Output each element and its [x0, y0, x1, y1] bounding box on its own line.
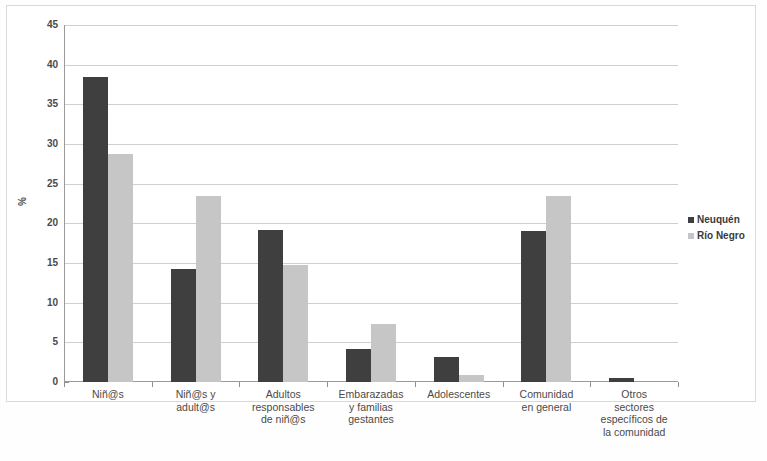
legend-swatch-icon [688, 233, 694, 239]
x-axis-category-label: Adultosresponsablesde niñ@s [233, 388, 333, 426]
bar [171, 269, 196, 382]
bar [108, 154, 133, 382]
y-axis-tick-label: 45 [12, 20, 58, 30]
bar-group [152, 25, 240, 382]
y-axis: 454035302520151050 [8, 25, 58, 382]
y-axis-tick-label: 35 [12, 99, 58, 109]
x-axis-tick-mark [239, 382, 240, 387]
x-axis-category-label: Niñ@s [58, 388, 158, 401]
x-axis-tick-mark [327, 382, 328, 387]
bar [434, 357, 459, 382]
chart-legend: NeuquénRío Negro [688, 214, 764, 246]
x-axis-category-label: Embarazadasy familiasgestantes [321, 388, 421, 426]
bar [346, 349, 371, 382]
x-axis-tick-mark [64, 382, 65, 387]
y-axis-tick-label: 20 [12, 218, 58, 228]
x-axis-tick-mark [590, 382, 591, 387]
legend-label: Neuquén [697, 214, 740, 225]
bar-group [239, 25, 327, 382]
y-axis-title: % [17, 197, 28, 206]
x-axis-category-label: Comunidaden general [497, 388, 597, 413]
bars-layer [64, 25, 678, 382]
bar [83, 77, 108, 382]
bar-group [503, 25, 591, 382]
bar [521, 231, 546, 382]
bar-group [327, 25, 415, 382]
x-axis-labels: Niñ@sNiñ@s yadult@sAdultosresponsablesde… [64, 388, 678, 458]
x-axis-tick-mark [152, 382, 153, 387]
bar [258, 230, 283, 382]
bar [371, 324, 396, 382]
chart-figure: 454035302520151050 % Niñ@sNiñ@s yadult@s… [0, 0, 767, 461]
y-axis-tick-label: 40 [12, 60, 58, 70]
bar [283, 265, 308, 382]
bar-group [590, 25, 678, 382]
bar [546, 196, 571, 382]
x-axis-category-label: Niñ@s yadult@s [146, 388, 246, 413]
legend-label: Río Negro [697, 230, 745, 241]
legend-item: Río Negro [688, 230, 764, 241]
bar-group [415, 25, 503, 382]
bar [196, 196, 221, 382]
bar [459, 375, 484, 382]
y-axis-tick-label: 10 [12, 298, 58, 308]
y-axis-tick-label: 0 [12, 377, 58, 387]
bar-group [64, 25, 152, 382]
y-axis-tick-label: 25 [12, 179, 58, 189]
y-axis-tick-label: 30 [12, 139, 58, 149]
x-axis-tick-mark [678, 382, 679, 387]
x-axis-tick-mark [503, 382, 504, 387]
x-axis-tick-mark [415, 382, 416, 387]
x-axis-category-label: Otrossectoresespecíficos dela comunidad [584, 388, 684, 438]
legend-item: Neuquén [688, 214, 764, 225]
y-axis-tick-label: 15 [12, 258, 58, 268]
legend-swatch-icon [688, 217, 694, 223]
y-axis-tick-label: 5 [12, 337, 58, 347]
x-axis-category-label: Adolescentes [409, 388, 509, 401]
